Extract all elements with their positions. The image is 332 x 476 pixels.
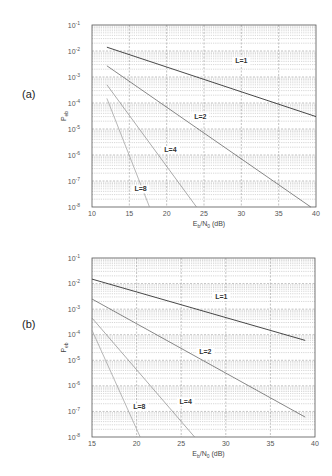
y-tick-label: 10-5 bbox=[68, 124, 80, 133]
y-axis-label: Peb bbox=[60, 342, 69, 352]
chart-panel-b: 15202530354010-110-210-310-410-510-610-7… bbox=[60, 253, 319, 460]
chart-panel-a: 1015202530354010-110-210-310-410-510-610… bbox=[60, 20, 320, 230]
curve-label: L=8 bbox=[133, 403, 145, 410]
x-axis-label: Eb/N0 (dB) bbox=[193, 220, 225, 229]
y-tick-label: 10-6 bbox=[68, 150, 80, 159]
x-tick-label: 20 bbox=[163, 210, 171, 217]
y-tick-label: 10-5 bbox=[68, 355, 80, 364]
y-tick-label: 10-8 bbox=[68, 432, 80, 441]
x-tick-label: 15 bbox=[125, 210, 133, 217]
y-tick-label: 10-3 bbox=[68, 304, 80, 313]
x-tick-label: 30 bbox=[237, 210, 245, 217]
x-tick-label: 20 bbox=[133, 440, 141, 447]
x-tick-label: 25 bbox=[177, 440, 185, 447]
y-tick-label: 10-1 bbox=[68, 253, 80, 262]
series-line-L1 bbox=[92, 279, 305, 340]
x-tick-label: 40 bbox=[311, 440, 319, 447]
y-tick-label: 10-6 bbox=[68, 380, 80, 389]
y-tick-label: 10-7 bbox=[68, 176, 80, 185]
y-tick-label: 10-2 bbox=[68, 46, 80, 55]
y-tick-label: 10-2 bbox=[68, 278, 80, 287]
x-tick-label: 25 bbox=[200, 210, 208, 217]
curve-label: L=2 bbox=[194, 113, 206, 120]
curve-label: L=4 bbox=[180, 398, 192, 405]
curve-label: L=1 bbox=[235, 57, 247, 64]
curve-label: L=1 bbox=[215, 293, 227, 300]
chart-canvas: 1015202530354010-110-210-310-410-510-610… bbox=[0, 0, 332, 476]
x-tick-label: 10 bbox=[88, 210, 96, 217]
y-tick-label: 10-7 bbox=[68, 406, 80, 415]
x-tick-label: 35 bbox=[267, 440, 275, 447]
y-axis-label: Peb bbox=[60, 111, 69, 121]
curve-label: L=2 bbox=[199, 348, 211, 355]
x-tick-label: 40 bbox=[312, 210, 320, 217]
y-tick-label: 10-1 bbox=[68, 20, 80, 29]
y-tick-label: 10-3 bbox=[68, 72, 80, 81]
series-line-L1 bbox=[107, 47, 316, 116]
y-tick-label: 10-4 bbox=[68, 329, 80, 338]
x-tick-label: 15 bbox=[88, 440, 96, 447]
x-axis-label: Eb/N0 (dB) bbox=[192, 450, 224, 459]
x-tick-label: 35 bbox=[275, 210, 283, 217]
y-tick-label: 10-4 bbox=[68, 98, 80, 107]
curve-label: L=4 bbox=[164, 146, 176, 153]
curve-label: L=8 bbox=[134, 185, 146, 192]
y-tick-label: 10-8 bbox=[68, 202, 80, 211]
x-tick-label: 30 bbox=[222, 440, 230, 447]
